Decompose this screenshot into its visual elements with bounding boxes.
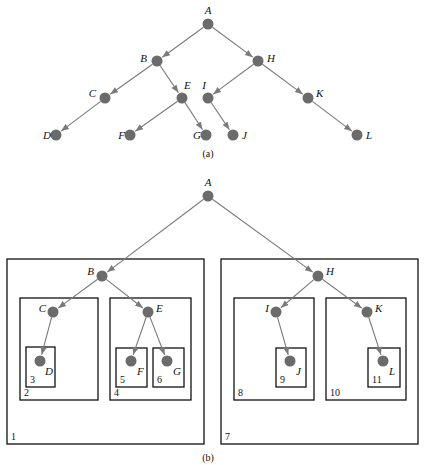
node-label: G [173,365,181,377]
node-label: F [117,129,125,141]
node-label: E [183,79,191,91]
node-D [51,130,62,141]
node-label: L [365,129,372,141]
partition-label: 11 [372,374,382,385]
node-label: F [136,365,144,377]
edge-A-B [107,199,203,272]
edge-C-D [61,101,100,131]
node-label: A [204,4,212,16]
node-E [177,93,188,104]
node-H [313,271,324,282]
node-label: D [44,365,53,377]
tree-b-partitioned: 1234567891011ABHCEIKDFGJL [7,176,418,444]
tree-a: ABHCEIKDFGJL [42,4,372,141]
node-A [203,19,214,30]
edge-I-J [211,103,229,130]
edge-I-J [278,317,289,354]
node-D [35,356,46,367]
edge-H-I [281,280,314,308]
node-G [162,356,173,367]
node-label: B [87,265,94,277]
partition-label: 5 [120,374,125,385]
partition-label: 9 [280,374,285,385]
edge-E-G [185,103,202,130]
node-K [303,93,314,104]
node-label: D [42,129,51,141]
edge-A-H [212,199,312,272]
node-K [362,307,373,318]
partition-box [7,259,204,444]
partition-label: 3 [30,374,35,385]
node-label: J [242,129,248,141]
edge-E-G [150,317,165,355]
node-label: C [89,87,97,99]
node-C [48,307,59,318]
node-I [203,93,214,104]
partition-label: 2 [24,387,29,398]
partition-label: 4 [114,387,119,398]
edge-E-F [135,101,177,131]
node-E [143,307,154,318]
node-J [285,356,296,367]
edge-B-C [58,279,97,308]
node-label: J [296,365,302,377]
node-F [125,130,136,141]
edge-K-L [369,317,381,355]
edge-H-K [322,279,361,308]
partition-label: 8 [238,387,243,398]
node-G [201,130,212,141]
partition-label: 10 [330,387,340,398]
edge-B-C [110,64,152,94]
node-F [126,356,137,367]
node-label: L [388,365,395,377]
edge-H-I [213,64,253,94]
partition-label: 1 [11,431,16,442]
node-J [228,130,239,141]
caption-a: (a) [202,148,213,160]
edge-K-L [312,101,351,131]
node-label: B [140,52,147,64]
partition-label: 6 [157,374,162,385]
edge-A-B [162,27,203,57]
edge-B-E [160,66,178,93]
partition-box [221,259,418,444]
edge-H-K [262,64,302,94]
node-label: C [39,302,47,314]
node-B [97,271,108,282]
node-L [378,356,389,367]
partition-label: 7 [225,431,230,442]
node-label: E [155,302,163,314]
edge-C-D [42,317,52,354]
node-A [203,191,214,202]
tree-diagram-canvas: ABHCEIKDFGJL (a) 1234567891011ABHCEIKDFG… [0,0,425,465]
edge-A-H [212,27,252,57]
node-B [152,56,163,67]
edge-E-F [133,317,146,355]
node-label: H [325,265,335,277]
node-label: A [204,176,212,188]
node-C [100,93,111,104]
caption-b: (b) [202,452,214,464]
node-label: I [264,302,270,314]
node-label: I [201,79,207,91]
node-label: G [193,129,201,141]
node-H [253,56,264,67]
node-I [271,307,282,318]
node-label: K [374,302,383,314]
node-label: H [266,52,276,64]
node-label: K [315,87,324,99]
edge-B-E [106,279,143,308]
node-L [352,130,363,141]
